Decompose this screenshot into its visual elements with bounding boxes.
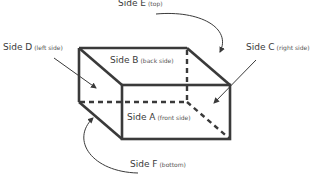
side-f-name: Side F xyxy=(130,159,158,169)
side-b-description: (back side) xyxy=(141,57,174,64)
side-b-name: Side B xyxy=(110,55,139,65)
side-e-name: Side E xyxy=(118,0,146,8)
side-b-label: Side B(back side) xyxy=(110,55,174,66)
side-d-name: Side D xyxy=(3,42,32,52)
side-c-name: Side C xyxy=(246,42,275,52)
side-a-label: Side A(front side) xyxy=(127,112,191,123)
box-sides-diagram: Side E(top) Side D(left side) Side B(bac… xyxy=(0,0,320,176)
side-f-label: Side F(bottom) xyxy=(130,159,186,170)
side-e-curved-arrow xyxy=(156,13,223,52)
side-d-pointer-arrow xyxy=(54,58,96,88)
side-c-label: Side C(right side) xyxy=(246,42,310,53)
side-d-description: (left side) xyxy=(34,44,63,51)
side-c-pointer-arrow xyxy=(214,60,256,103)
side-f-description: (bottom) xyxy=(160,161,186,168)
side-d-label: Side D(left side) xyxy=(3,42,63,53)
box-drawing xyxy=(0,0,320,176)
side-a-description: (front side) xyxy=(157,114,190,121)
side-c-description: (right side) xyxy=(277,44,310,51)
side-e-description: (top) xyxy=(148,0,163,7)
side-a-name: Side A xyxy=(127,112,155,122)
side-e-label: Side E(top) xyxy=(118,0,163,9)
